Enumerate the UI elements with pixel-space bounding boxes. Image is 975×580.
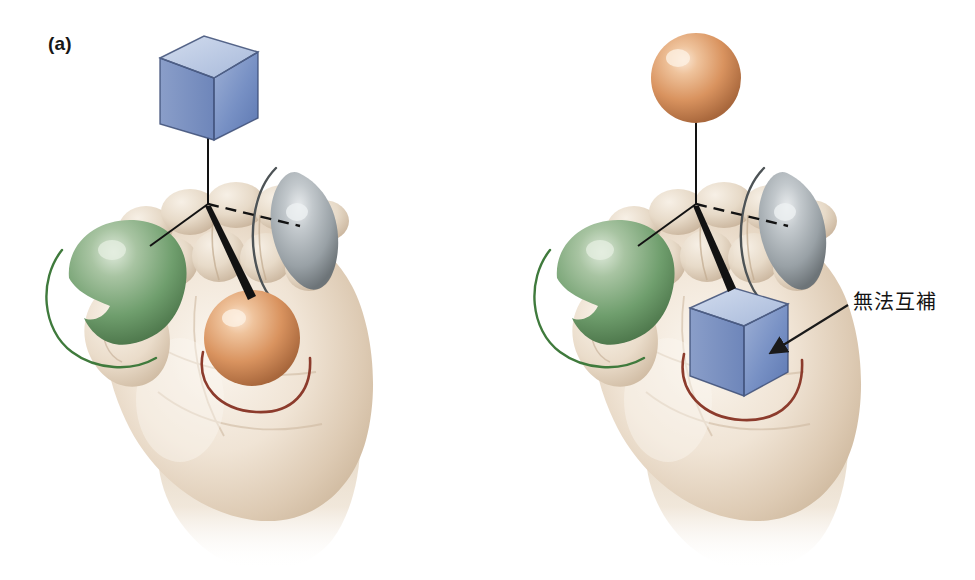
floating-sphere-b bbox=[651, 33, 741, 123]
gray-lens-highlight-a bbox=[286, 203, 308, 221]
panel-a: (a) bbox=[0, 0, 487, 580]
figure-root: (a) bbox=[0, 0, 975, 580]
callout-label: 無法互補 bbox=[853, 286, 937, 315]
palm-cube-b bbox=[690, 288, 788, 396]
green-dome-highlight-b bbox=[586, 240, 614, 260]
floating-cube-a bbox=[160, 36, 258, 140]
gray-lens-highlight-b bbox=[774, 203, 796, 221]
panel-label-a: (a) bbox=[48, 33, 72, 55]
floating-sphere-highlight-b bbox=[666, 49, 690, 67]
green-dome-highlight-a bbox=[98, 240, 126, 260]
orange-sphere-a bbox=[204, 290, 300, 386]
orange-sphere-highlight-a bbox=[222, 309, 246, 327]
panel-a-artwork bbox=[0, 0, 487, 580]
